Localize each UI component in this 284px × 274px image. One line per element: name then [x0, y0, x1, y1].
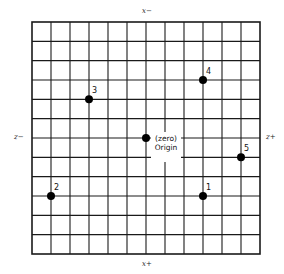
point-label-3: 3	[92, 87, 97, 95]
coordinate-grid-diagram	[0, 0, 284, 274]
origin-label-line1: (zero)	[153, 134, 179, 143]
data-point-5	[237, 153, 245, 161]
data-point-1	[199, 192, 207, 200]
axis-label-x-minus: x−	[142, 8, 152, 15]
origin-label-line2: Origin	[153, 143, 179, 152]
point-label-1: 1	[206, 184, 211, 192]
origin-label: (zero) Origin	[152, 133, 180, 153]
data-point-3	[85, 95, 93, 103]
data-point-2	[47, 192, 55, 200]
point-label-4: 4	[206, 68, 211, 76]
point-label-5: 5	[244, 145, 249, 153]
axis-label-z-plus: z+	[266, 134, 276, 141]
origin-point	[142, 134, 150, 142]
data-point-4	[199, 76, 207, 84]
axis-label-x-plus: x+	[142, 261, 152, 268]
point-label-2: 2	[54, 184, 59, 192]
axis-label-z-minus: z−	[14, 134, 24, 141]
